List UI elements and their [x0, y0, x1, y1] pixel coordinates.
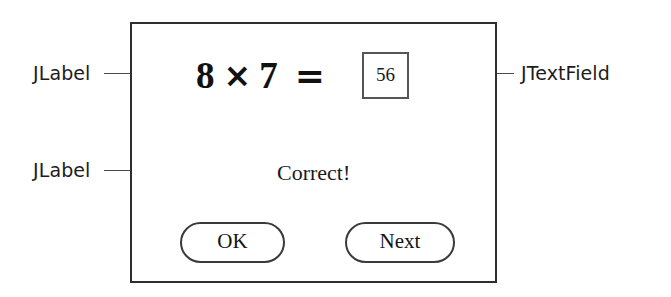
feedback-label: Correct!: [277, 160, 350, 186]
left-operand: 8: [196, 54, 215, 97]
annotation-label-jtextfield: JTextField: [521, 62, 610, 84]
equation-label: 8 × 7 =: [196, 47, 325, 103]
annotation-label-jlabel-feedback: JLabel: [33, 159, 90, 181]
next-button-label: Next: [380, 229, 421, 254]
diagram-canvas: JLabel JLabel JTextField 8 × 7 = 56 Corr…: [0, 0, 671, 297]
equals-sign: =: [295, 55, 325, 96]
multiplication-sign-icon: ×: [224, 56, 252, 95]
ok-button-label: OK: [217, 229, 247, 254]
annotation-label-jlabel-equation: JLabel: [33, 62, 90, 84]
right-operand: 7: [259, 54, 278, 97]
answer-input-value: 56: [376, 64, 395, 86]
ok-button[interactable]: OK: [180, 222, 285, 263]
next-button[interactable]: Next: [345, 222, 455, 263]
answer-input[interactable]: 56: [362, 52, 409, 99]
